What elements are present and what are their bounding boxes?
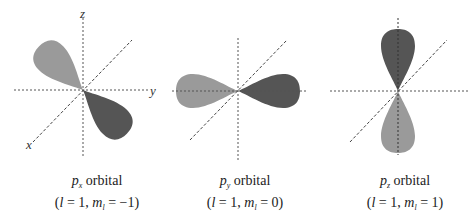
x-axis-label: x (25, 137, 32, 152)
z-axis-label: z (79, 6, 85, 21)
pz-orbital-diagram (330, 18, 468, 155)
y-axis-label: y (148, 83, 156, 98)
py-caption: py orbital (l = 1, ml = 0) (175, 172, 315, 216)
pz-caption: pz orbital (l = 1, ml = 1) (335, 172, 475, 216)
px-caption: px orbital (l = 1, ml = −1) (22, 172, 172, 216)
py-orbital-diagram (172, 38, 308, 160)
px-orbital-diagram: z y x (14, 6, 156, 158)
